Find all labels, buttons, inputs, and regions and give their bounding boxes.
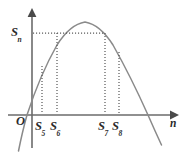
y-axis-label: Sn [11,23,22,42]
y-axis-label-subscript: n [17,35,21,44]
tick-label-s7-subscript: 7 [104,129,108,138]
tick-label-s5: S5 [35,117,46,136]
math-figure-parabola: Sn O n S5 S6 S7 S8 [0,0,184,153]
origin-label: O [16,115,25,128]
tick-label-s8-subscript: 8 [118,129,122,138]
x-axis-label: n [170,118,176,130]
figure-canvas [0,0,184,153]
tick-label-s5-subscript: 5 [41,129,45,138]
y-axis-arrow-icon [28,8,37,17]
tick-label-s7: S7 [98,117,109,136]
tick-label-s8: S8 [112,117,123,136]
tick-label-s6: S6 [50,117,61,136]
tick-label-s6-subscript: 6 [56,129,60,138]
